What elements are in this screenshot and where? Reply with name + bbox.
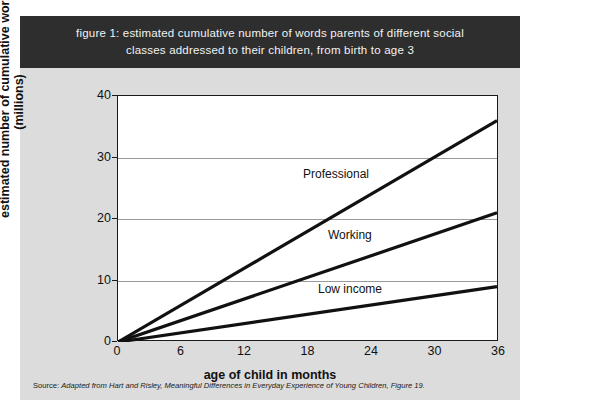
- source-citation: Adapted from Hart and Risley, Meaningful…: [61, 381, 425, 390]
- x-tick-label-12: 12: [237, 344, 251, 358]
- x-tick-label-18: 18: [301, 344, 315, 358]
- line-low-income: [118, 287, 497, 342]
- x-tick-label-24: 24: [364, 344, 378, 358]
- y-tick-label-30: 30: [71, 150, 111, 164]
- y-tick-label-10: 10: [71, 273, 111, 287]
- series-lines: [118, 96, 499, 342]
- x-tick-label-30: 30: [428, 344, 442, 358]
- figure-root: figure 1: estimated cumulative number of…: [0, 0, 607, 413]
- figure-title-line-2: classes addressed to their children, fro…: [126, 44, 414, 56]
- plot-area: [117, 95, 498, 341]
- y-tick-label-40: 40: [71, 88, 111, 102]
- x-tick-label-0: 0: [114, 344, 121, 358]
- source-prefix: Source:: [33, 381, 61, 390]
- figure-title: figure 1: estimated cumulative number of…: [54, 25, 486, 59]
- x-tick-label-6: 6: [177, 344, 184, 358]
- y-tick-label-0: 0: [71, 334, 111, 348]
- figure-title-line-1: figure 1: estimated cumulative number of…: [76, 27, 464, 39]
- y-axis-title-line-2: (millions): [12, 74, 26, 130]
- plot-frame: [117, 95, 498, 341]
- figure-title-band: figure 1: estimated cumulative number of…: [20, 16, 520, 68]
- y-axis-title-line-1: estimated number of cumulative words: [0, 0, 12, 218]
- source-note: Source: Adapted from Hart and Risley, Me…: [33, 380, 503, 391]
- series-label-professional: Professional: [303, 167, 369, 181]
- y-tick-mark-0: [112, 341, 117, 342]
- series-label-working: Working: [328, 228, 372, 242]
- y-tick-label-20: 20: [71, 211, 111, 225]
- series-label-low-income: Low income: [318, 282, 382, 296]
- x-tick-label-36: 36: [491, 344, 505, 358]
- y-axis-title: estimated number of cumulative words (mi…: [0, 0, 26, 218]
